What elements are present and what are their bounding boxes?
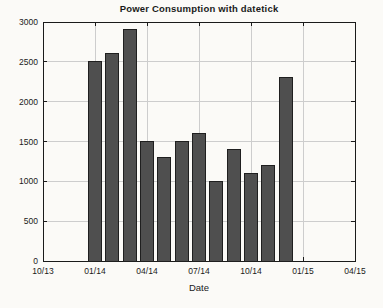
y-tick-label: 1000 [19,176,38,186]
plot-area: 05001000150020002500300010/1301/1404/140… [0,0,383,308]
x-tick-label: 10/13 [32,266,54,276]
x-tick-label: 01/14 [84,266,106,276]
bar-07/14 [193,134,206,261]
chart-title: Power Consumption with datetick [43,3,355,14]
bar-01/14 [89,62,102,261]
y-tick-label: 0 [33,256,38,266]
bar-08/14 [210,181,223,261]
bar-03/14 [123,30,136,261]
y-tick-label: 3000 [19,17,38,27]
bar-10/14 [245,173,258,261]
bar-04/14 [141,142,154,262]
bar-05/14 [158,157,171,261]
bar-12/14 [279,78,292,261]
x-tick-label: 07/14 [188,266,210,276]
x-tick-label: 01/15 [292,266,314,276]
y-tick-label: 2500 [19,57,38,67]
x-tick-label: 04/14 [136,266,158,276]
y-tick-label: 500 [24,216,38,226]
y-tick-label: 2000 [19,97,38,107]
x-tick-label: 10/14 [240,266,262,276]
y-tick-label: 1500 [19,137,38,147]
x-axis-label: Date [43,282,355,293]
bar-09/14 [227,149,240,261]
x-tick-label: 04/15 [344,266,366,276]
bar-11/14 [262,165,275,261]
bar-06/14 [175,142,188,262]
matlab-figure: 05001000150020002500300010/1301/1404/140… [0,0,383,308]
bar-02/14 [106,54,119,261]
